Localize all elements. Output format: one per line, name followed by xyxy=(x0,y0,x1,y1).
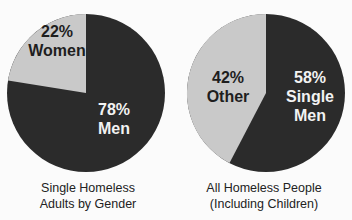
other-label: Other xyxy=(198,87,258,106)
caption-line-1: Single Homeless xyxy=(0,180,176,196)
caption-gender: Single Homeless Adults by Gender xyxy=(0,180,176,212)
label-other: 42% Other xyxy=(198,68,258,106)
women-label: Women xyxy=(24,41,90,60)
pie-chart-gender: 22% Women 78% Men Single Homeless Adults… xyxy=(0,0,176,220)
men-label: Men xyxy=(86,119,142,138)
single-men-label: SingleMen xyxy=(280,87,340,125)
women-percent: 22% xyxy=(24,22,90,41)
caption-all: All Homeless People (Including Children) xyxy=(176,180,352,212)
label-single-men: 58% SingleMen xyxy=(280,68,340,125)
single-men-percent: 58% xyxy=(280,68,340,87)
label-women: 22% Women xyxy=(24,22,90,60)
label-men: 78% Men xyxy=(86,100,142,138)
other-percent: 42% xyxy=(198,68,258,87)
caption-line-2: (Including Children) xyxy=(176,196,352,212)
caption-line-1: All Homeless People xyxy=(176,180,352,196)
pie-chart-all: 42% Other 58% SingleMen All Homeless Peo… xyxy=(176,0,352,220)
men-percent: 78% xyxy=(86,100,142,119)
caption-line-2: Adults by Gender xyxy=(0,196,176,212)
